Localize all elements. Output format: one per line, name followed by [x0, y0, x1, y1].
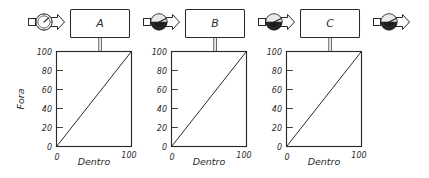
plot-b-xtick-100: 100: [236, 151, 251, 160]
plot-a-xtick-0: 0: [54, 153, 59, 162]
block-c-label: C: [326, 17, 334, 30]
figure-canvas: A 100 80 60 40 20 0 Fora 0 100 Dentro: [0, 0, 429, 178]
ytick-100: 100: [37, 48, 52, 57]
block-b-label: B: [211, 17, 219, 30]
block-a[interactable]: A: [71, 10, 130, 38]
gauge-icon-1: [29, 14, 65, 30]
ytick-40: 40: [42, 105, 52, 114]
plot-c-xtick-0: 0: [284, 153, 289, 162]
diagram-svg: A 100 80 60 40 20 0 Fora 0 100 Dentro: [0, 0, 429, 178]
block-b[interactable]: B: [186, 10, 245, 38]
ytick-20: 20: [272, 124, 282, 133]
ytick-60: 60: [157, 86, 167, 95]
block-c[interactable]: C: [301, 10, 360, 38]
ytick-40: 40: [157, 105, 167, 114]
gauge-icon-2: [144, 14, 180, 30]
gauge-icon-3: [259, 14, 295, 30]
plot-a-xaxis-label: Dentro: [78, 156, 111, 167]
ytick-60: 60: [272, 86, 282, 95]
plot-b-xtick-0: 0: [169, 153, 174, 162]
ytick-0: 0: [47, 143, 52, 152]
ytick-0: 0: [162, 143, 167, 152]
ytick-60: 60: [42, 86, 52, 95]
ytick-80: 80: [42, 67, 52, 76]
plot-c-xtick-100: 100: [351, 151, 366, 160]
plot-c-xaxis-label: Dentro: [308, 156, 341, 167]
plot-b-xaxis-label: Dentro: [193, 156, 226, 167]
ytick-0: 0: [277, 143, 282, 152]
connector-c: [329, 38, 332, 52]
connector-b: [214, 38, 217, 52]
plot-c-yticklabels: 100 80 60 40 20 0: [267, 48, 282, 152]
connector-a: [99, 38, 102, 52]
block-a-label: A: [95, 17, 104, 30]
gauge-icon-4: [374, 14, 410, 30]
plot-a-xtick-100: 100: [121, 151, 136, 160]
ytick-100: 100: [267, 48, 282, 57]
ytick-40: 40: [272, 105, 282, 114]
ytick-100: 100: [152, 48, 167, 57]
plot-b-yticklabels: 100 80 60 40 20 0: [152, 48, 167, 152]
plot-a-yticklabels: 100 80 60 40 20 0: [37, 48, 52, 152]
ytick-20: 20: [42, 124, 52, 133]
yaxis-label-fora: Fora: [15, 88, 26, 109]
ytick-80: 80: [157, 67, 167, 76]
ytick-80: 80: [272, 67, 282, 76]
ytick-20: 20: [157, 124, 167, 133]
